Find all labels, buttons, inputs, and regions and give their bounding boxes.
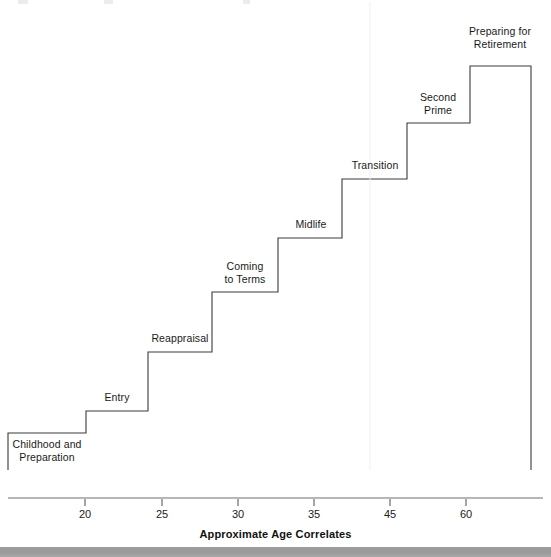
axis-tick-label-20: 20 (70, 508, 100, 520)
step-label-childhood-and-preparation: Childhood and Preparation (1, 438, 93, 464)
scan-artifact-top-left (18, 0, 28, 4)
axis-tick-label-25: 25 (147, 508, 177, 520)
step-label-transition: Transition (333, 159, 417, 172)
step-label-reappraisal: Reappraisal (137, 332, 223, 345)
step-label-preparing-for-retirement: Preparing for Retirement (452, 25, 548, 51)
career-stages-staircase-figure: Childhood and Preparation Entry Reapprai… (0, 0, 551, 557)
axis-tick-label-45: 45 (375, 508, 405, 520)
page-footer-bar (0, 547, 551, 557)
scan-artifact-top-mid (104, 0, 113, 4)
axis-tick-label-30: 30 (223, 508, 253, 520)
scan-artifact-top-right (243, 0, 250, 4)
axis-tick-label-35: 35 (299, 508, 329, 520)
axis-tick-label-60: 60 (451, 508, 481, 520)
step-label-midlife: Midlife (274, 218, 348, 231)
step-label-entry: Entry (80, 391, 154, 404)
step-label-coming-to-terms: Coming to Terms (205, 260, 285, 286)
axis-title: Approximate Age Correlates (0, 528, 551, 540)
step-label-second-prime: Second Prime (400, 91, 476, 117)
